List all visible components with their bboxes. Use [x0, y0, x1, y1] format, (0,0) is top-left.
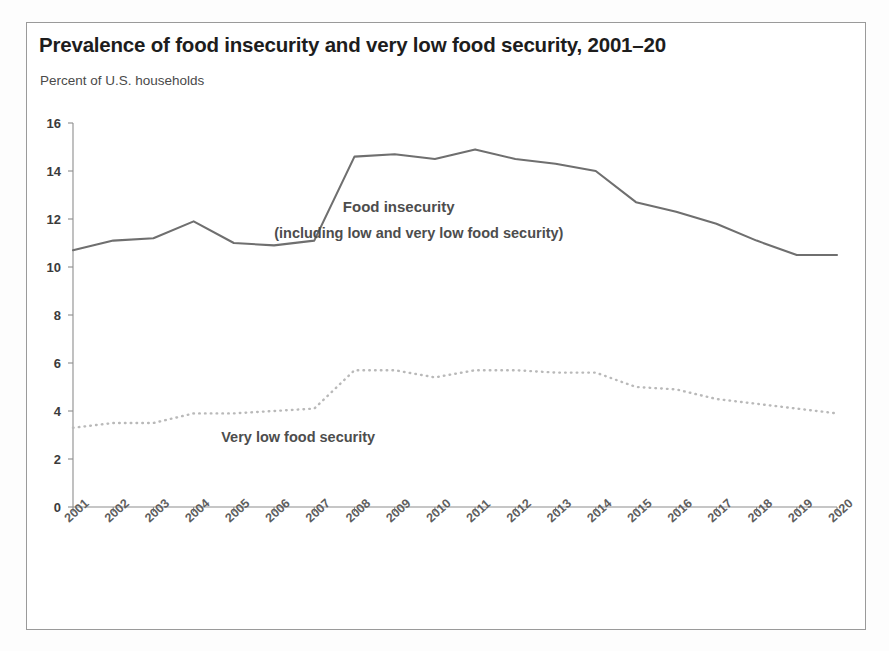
axes-group [73, 123, 837, 507]
x-tick-label: 2002 [102, 496, 132, 525]
series-group [73, 149, 837, 427]
y-tick-label: 6 [54, 356, 61, 371]
plot-area: 0246810121416 20012002200320042005200620… [27, 23, 867, 631]
y-tick-label: 4 [54, 404, 62, 419]
x-tick-label: 2005 [222, 496, 252, 525]
x-tick-label: 2009 [383, 496, 413, 525]
annotation-very-low-food-security: Very low food security [221, 429, 375, 445]
x-tick-label: 2011 [464, 497, 494, 526]
annotations-group: Food insecurity (including low and very … [221, 198, 563, 445]
annotation-food-insecurity: Food insecurity [343, 198, 455, 215]
x-tick-label: 2012 [504, 496, 534, 525]
x-tick-label: 2001 [62, 496, 92, 525]
x-tick-label: 2003 [142, 496, 172, 525]
scanned-page: Prevalence of food insecurity and very l… [0, 0, 889, 651]
y-tick-label: 0 [54, 500, 61, 515]
figure-frame: Prevalence of food insecurity and very l… [26, 22, 866, 630]
y-tick-label: 16 [47, 116, 61, 131]
series-very-low-food-security [73, 370, 837, 428]
line-chart: 0246810121416 20012002200320042005200620… [27, 23, 867, 631]
x-tick-label: 2020 [826, 496, 856, 525]
x-tick-label: 2017 [705, 496, 735, 525]
y-tick-label: 8 [54, 308, 61, 323]
x-tick-label: 2014 [584, 496, 614, 525]
x-tick-label: 2018 [745, 496, 775, 525]
x-tick-label: 2006 [263, 496, 293, 525]
x-axis-tick-labels: 2001200220032004200520062007200820092010… [62, 496, 856, 525]
annotation-food-insecurity-detail: (including low and very low food securit… [274, 225, 563, 241]
x-tick-label: 2004 [182, 496, 212, 525]
x-tick-label: 2013 [544, 496, 574, 525]
x-tick-label: 2008 [343, 496, 373, 525]
x-tick-label: 2015 [625, 496, 655, 525]
y-axis-ticks: 0246810121416 [47, 116, 73, 515]
y-tick-label: 12 [47, 212, 61, 227]
y-tick-label: 14 [47, 164, 62, 179]
y-tick-label: 2 [54, 452, 61, 467]
x-tick-label: 2010 [424, 496, 454, 525]
y-tick-label: 10 [47, 260, 61, 275]
x-tick-label: 2016 [665, 496, 695, 525]
x-tick-label: 2019 [785, 496, 815, 525]
x-tick-label: 2007 [303, 496, 333, 525]
